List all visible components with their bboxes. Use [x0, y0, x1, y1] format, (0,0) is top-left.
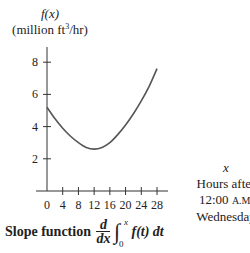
y-tick-label: 2 — [32, 152, 38, 166]
x-tick-label: 12 — [88, 198, 100, 212]
data-curve — [47, 69, 157, 150]
x-tick-label: 8 — [75, 198, 81, 212]
fraction-numerator: d — [96, 218, 110, 232]
x-axis-label-line3: Wednesday — [196, 209, 250, 225]
am-text: A.M. — [232, 195, 250, 206]
fraction-denominator: dx — [96, 232, 110, 245]
x-tick-label: 4 — [60, 198, 66, 212]
x-axis-label: x Hours after 12:00 A.M. Wednesday — [196, 160, 250, 225]
axes: 24680481216202428 — [32, 47, 168, 212]
y-tick-label: 4 — [32, 120, 38, 134]
derivative-fraction: d dx — [96, 218, 110, 245]
x-axis-label-line2: 12:00 A.M. — [196, 192, 250, 209]
y-tick-label: 6 — [32, 87, 38, 101]
integral-lower-limit: 0 — [119, 239, 124, 249]
x-tick-label: 20 — [120, 198, 132, 212]
y-tick-label: 8 — [32, 55, 38, 69]
integrand: f(t) dt — [131, 224, 163, 239]
integral-sign: ∫ x 0 — [114, 219, 128, 245]
x-axis-variable: x — [196, 160, 250, 176]
x-tick-label: 24 — [135, 198, 147, 212]
caption-text: Slope function — [5, 224, 91, 239]
x-tick-label: 0 — [44, 198, 50, 212]
caption: Slope function d dx ∫ x 0 f(t) dt — [5, 218, 164, 245]
x-tick-label: 28 — [151, 198, 163, 212]
integral-upper-limit: x — [124, 217, 128, 227]
time-text: 12:00 — [199, 192, 232, 207]
x-tick-label: 16 — [104, 198, 116, 212]
x-axis-label-line1: Hours after — [196, 176, 250, 192]
